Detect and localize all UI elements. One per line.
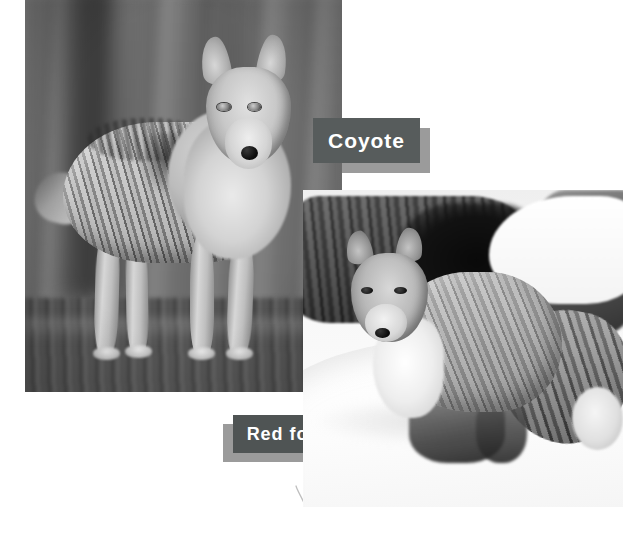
fox-nose bbox=[375, 328, 390, 338]
coyote-eye bbox=[217, 103, 231, 111]
coyote-muzzle bbox=[225, 118, 273, 169]
coyote-eye bbox=[248, 103, 262, 111]
caption-coyote-label: Coyote bbox=[328, 130, 405, 151]
fox-eye bbox=[394, 287, 407, 294]
photo-redfox[interactable] bbox=[303, 190, 623, 507]
photo-coyote[interactable] bbox=[25, 0, 342, 392]
coyote-paw bbox=[188, 347, 215, 360]
collage-canvas: Coyote Red fox bbox=[0, 0, 625, 543]
coyote-paw bbox=[226, 347, 253, 360]
coyote-ground-highlight bbox=[25, 318, 342, 342]
fox-eye bbox=[361, 287, 374, 294]
coyote-paw bbox=[125, 345, 152, 358]
coyote-paw bbox=[93, 347, 120, 360]
fox-tail-tip bbox=[572, 387, 623, 450]
coyote-ground-grass bbox=[25, 298, 342, 392]
caption-coyote-box[interactable]: Coyote bbox=[313, 118, 420, 163]
caption-coyote[interactable]: Coyote bbox=[313, 118, 420, 163]
